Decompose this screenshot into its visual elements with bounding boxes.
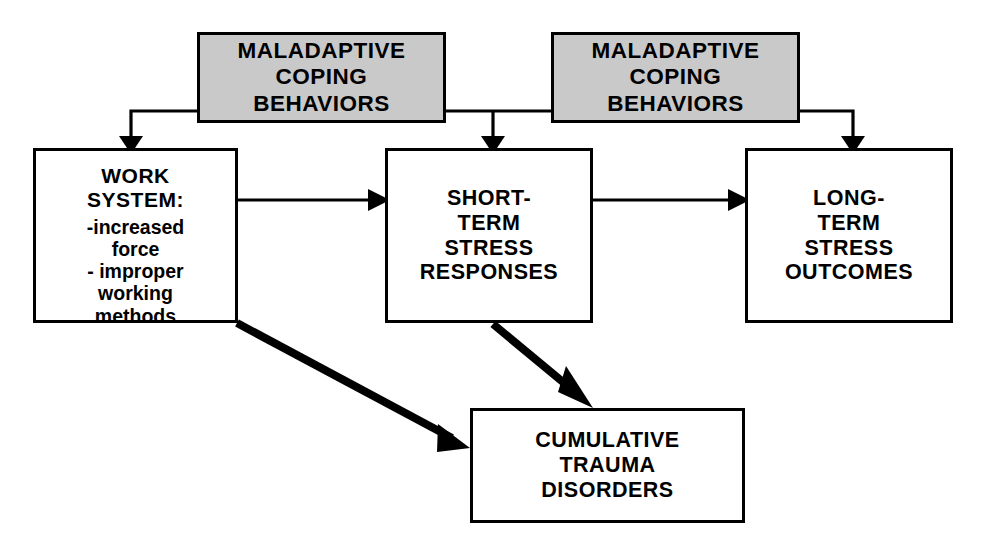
work-system-item: force: [112, 238, 160, 260]
node-line: COPING: [276, 64, 368, 90]
node-line: OUTCOMES: [785, 260, 913, 285]
node-line: DISORDERS: [541, 478, 673, 503]
node-line: TRAUMA: [559, 453, 655, 478]
node-line: STRESS: [444, 236, 533, 261]
node-long-term-stress-outcomes: LONG- TERM STRESS OUTCOMES: [745, 148, 953, 323]
edge-short-term-to-long-term: [593, 189, 750, 211]
work-system-item: -increased: [87, 216, 185, 238]
node-line: STRESS: [804, 236, 893, 261]
node-line: TERM: [458, 211, 521, 236]
edge-work-system-to-short-term: [238, 189, 390, 211]
work-system-item: working: [98, 282, 173, 304]
node-work-system: WORK SYSTEM: -increased force - improper…: [33, 148, 238, 323]
node-maladaptive-coping-behaviors-left: MALADAPTIVE COPING BEHAVIORS: [197, 32, 446, 123]
node-line: COPING: [630, 64, 722, 90]
node-line: TERM: [818, 211, 881, 236]
work-system-item-list: -increased force - improper working meth…: [87, 216, 185, 327]
node-cumulative-trauma-disorders: CUMULATIVE TRAUMA DISORDERS: [470, 408, 745, 523]
node-maladaptive-coping-behaviors-right: MALADAPTIVE COPING BEHAVIORS: [551, 32, 800, 123]
node-line: MALADAPTIVE: [238, 38, 406, 64]
work-system-item: - improper: [87, 260, 183, 282]
node-line: BEHAVIORS: [607, 91, 744, 117]
edge-short-term-to-cumulative: [493, 324, 593, 408]
node-line: BEHAVIORS: [253, 91, 390, 117]
node-line: CUMULATIVE: [535, 428, 679, 453]
node-line: LONG-: [813, 186, 885, 211]
node-line: SYSTEM:: [87, 188, 184, 212]
node-line: WORK: [101, 164, 170, 188]
node-short-term-stress-responses: SHORT- TERM STRESS RESPONSES: [385, 148, 593, 323]
edge-work-system-to-cumulative: [237, 323, 470, 452]
node-line: MALADAPTIVE: [592, 38, 760, 64]
flow-diagram: MALADAPTIVE COPING BEHAVIORS MALADAPTIVE…: [0, 0, 985, 548]
node-line: RESPONSES: [420, 260, 558, 285]
work-system-item: methods: [95, 305, 176, 327]
node-line: SHORT-: [447, 186, 531, 211]
